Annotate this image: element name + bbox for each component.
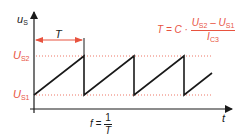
lower-threshold-label: US1: [13, 89, 30, 101]
y-axis-label: uS: [17, 14, 28, 26]
minus-sign: –: [207, 17, 218, 28]
period-symbol: T: [55, 28, 62, 40]
numerator-b-sub: S1: [226, 22, 235, 29]
denominator-sub: C3: [210, 36, 219, 43]
upper-threshold-label: US2: [13, 50, 30, 62]
upper-threshold-symbol: U: [13, 49, 21, 61]
period-label: T: [55, 29, 62, 40]
x-axis-symbol: t: [222, 112, 225, 124]
upper-threshold-subscript: S2: [21, 55, 30, 62]
frequency-formula-numerator: 1: [104, 113, 112, 125]
period-formula-lhs: T = C ·: [157, 24, 188, 35]
frequency-formula-lhs: f =: [90, 118, 101, 129]
frequency-formula-fraction: 1 T: [104, 113, 112, 136]
period-formula: T = C · US2 – US1 IC3: [157, 18, 235, 43]
x-axis-label: t: [222, 113, 225, 124]
y-axis-subscript: S: [23, 19, 28, 26]
lower-threshold-subscript: S1: [21, 94, 30, 101]
numerator-b: U: [219, 17, 226, 28]
lower-threshold-symbol: U: [13, 88, 21, 100]
period-formula-denominator: IC3: [207, 31, 219, 43]
period-formula-fraction: US2 – US1 IC3: [191, 18, 236, 43]
numerator-a: U: [192, 17, 199, 28]
period-formula-numerator: US2 – US1: [191, 18, 236, 31]
frequency-formula-denominator: T: [105, 125, 111, 136]
sawtooth-waveform: [34, 56, 212, 95]
frequency-formula: f = 1 T: [90, 113, 112, 136]
